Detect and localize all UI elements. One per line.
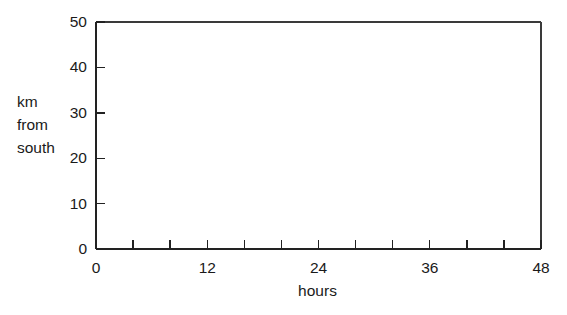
plot-frame <box>96 22 541 249</box>
x-tick-label-48: 48 <box>532 260 549 276</box>
x-axis-label: hours <box>0 282 567 300</box>
x-tick-label-24: 24 <box>310 260 327 276</box>
x-axis-ticks <box>96 240 541 249</box>
y-axis-label-line-2: south <box>17 136 55 159</box>
y-axis-label: kmfromsouth <box>17 90 55 159</box>
y-axis-label-line-0: km <box>17 90 55 113</box>
y-axis-label-line-1: from <box>17 113 55 136</box>
x-tick-label-36: 36 <box>421 260 438 276</box>
chart-figure: 01020304050 012243648 kmfromsouth hours <box>0 0 567 315</box>
x-tick-label-12: 12 <box>199 260 216 276</box>
y-tick-label-50: 50 <box>40 14 87 30</box>
y-tick-label-40: 40 <box>40 60 87 76</box>
x-axis-label-text: hours <box>298 282 337 299</box>
x-tick-label-0: 0 <box>92 260 101 276</box>
y-tick-label-10: 10 <box>40 196 87 212</box>
y-axis-ticks <box>96 22 105 249</box>
y-tick-label-0: 0 <box>40 241 87 257</box>
